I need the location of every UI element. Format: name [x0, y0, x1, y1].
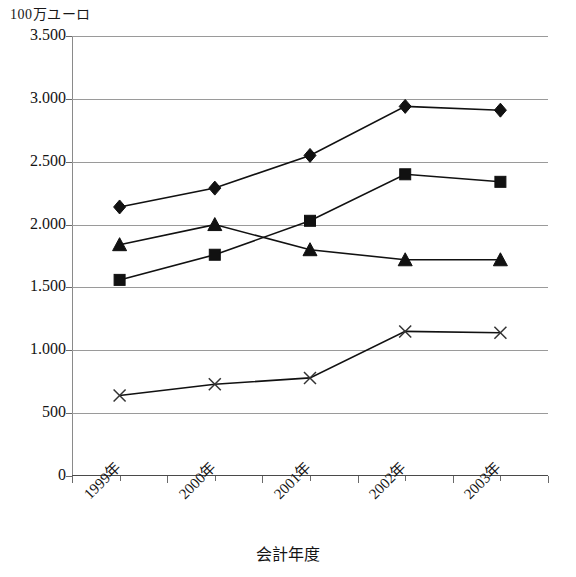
- y-tick-label: 2.500: [30, 153, 66, 169]
- data-point-marker: [304, 148, 316, 162]
- y-tick-label: 0: [58, 467, 66, 483]
- data-point-marker: [208, 218, 222, 231]
- data-point-marker: [495, 176, 506, 187]
- data-point-marker: [114, 200, 126, 214]
- x-tick-mark-minor: [310, 476, 311, 481]
- x-tick-mark: [548, 476, 549, 483]
- data-point-marker: [209, 181, 221, 195]
- y-tick-mark: [66, 162, 72, 163]
- series-layer: [72, 36, 548, 476]
- y-tick-mark: [66, 413, 72, 414]
- figure-caption: [8, 568, 568, 577]
- data-point-marker: [305, 215, 316, 226]
- data-point-marker: [494, 103, 506, 117]
- plot-area: [72, 36, 548, 476]
- x-axis-title: 会計年度: [0, 541, 576, 565]
- y-tick-mark: [66, 99, 72, 100]
- chart-figure: 100万ユーロ 3.5003.0002.5002.0001.5001.00050…: [0, 0, 576, 577]
- data-point-marker: [114, 274, 125, 285]
- y-tick-label: 3.000: [30, 90, 66, 106]
- series-x: [114, 325, 507, 401]
- x-tick-mark: [72, 476, 73, 483]
- y-axis-title: 100万ユーロ: [10, 3, 91, 23]
- x-tick-mark: [453, 476, 454, 483]
- x-tick-mark: [358, 476, 359, 483]
- y-tick-label: 1.500: [30, 278, 66, 294]
- series-diamond: [114, 99, 507, 214]
- y-tick-label: 1.000: [30, 341, 66, 357]
- series-square: [114, 169, 506, 286]
- y-tick-label: 2.000: [30, 216, 66, 232]
- y-tick-label: 500: [42, 404, 66, 420]
- series-line: [120, 174, 501, 280]
- y-tick-mark: [66, 287, 72, 288]
- data-point-marker: [400, 169, 411, 180]
- x-tick-mark: [167, 476, 168, 483]
- series-line: [120, 331, 501, 395]
- y-tick-label: 3.500: [30, 27, 66, 43]
- x-tick-mark: [262, 476, 263, 483]
- y-tick-mark: [66, 350, 72, 351]
- y-tick-mark: [66, 225, 72, 226]
- data-point-marker: [399, 99, 411, 113]
- x-tick-mark-minor: [120, 476, 121, 481]
- y-tick-mark: [66, 36, 72, 37]
- x-tick-mark-minor: [215, 476, 216, 481]
- x-tick-mark-minor: [405, 476, 406, 481]
- x-tick-mark-minor: [500, 476, 501, 481]
- data-point-marker: [209, 249, 220, 260]
